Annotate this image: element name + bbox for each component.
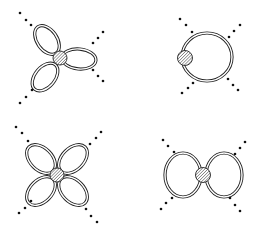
two-loop-vertex-diagram — [160, 139, 247, 213]
dot — [239, 147, 242, 150]
feynman-diagram-figure — [0, 0, 260, 231]
external-leg-dots — [19, 89, 34, 105]
dot — [85, 208, 88, 211]
dot — [15, 126, 18, 129]
external-leg-dots — [162, 139, 176, 154]
dot — [244, 141, 247, 144]
dot — [165, 202, 168, 205]
external-leg-dots — [92, 69, 105, 83]
dot — [232, 84, 235, 87]
dot — [162, 139, 165, 142]
dot — [173, 151, 176, 154]
three-loop-vertex-diagram — [19, 12, 105, 105]
dot — [31, 89, 34, 92]
external-leg-dots — [179, 18, 194, 34]
dot — [19, 102, 22, 105]
dot — [19, 12, 22, 15]
four-loop-vertex-diagram — [15, 126, 103, 224]
dot — [25, 19, 28, 22]
external-leg-dots — [160, 197, 174, 211]
dot — [160, 208, 163, 211]
external-leg-dots — [234, 141, 247, 156]
dot — [227, 78, 230, 81]
dot — [102, 80, 105, 83]
dot — [239, 210, 242, 213]
dot — [97, 37, 100, 40]
dot — [96, 221, 99, 224]
dot — [95, 137, 98, 140]
dot — [171, 197, 174, 200]
dot — [237, 89, 240, 92]
dot — [181, 92, 184, 95]
dot — [90, 215, 93, 218]
dot — [239, 24, 242, 27]
dot — [185, 24, 188, 27]
external-leg-dots — [89, 131, 103, 146]
dot — [192, 82, 195, 85]
external-leg-dots — [15, 126, 30, 143]
dot — [21, 132, 24, 135]
dot — [167, 145, 170, 148]
external-leg-dots — [19, 12, 33, 27]
propagator-loop — [206, 153, 242, 197]
external-leg-dots — [229, 197, 242, 213]
dot — [30, 24, 33, 27]
dot — [228, 36, 231, 39]
dot — [18, 212, 21, 215]
dot — [27, 140, 30, 143]
dot — [229, 197, 232, 200]
dot — [30, 200, 33, 203]
external-leg-dots — [228, 24, 242, 39]
dot — [191, 31, 194, 34]
dot — [102, 31, 105, 34]
hatched-vertex-blob — [178, 51, 193, 66]
external-leg-dots — [227, 78, 240, 92]
single-large-loop-diagram — [178, 18, 242, 95]
dot — [233, 30, 236, 33]
dot — [89, 143, 92, 146]
dot — [25, 96, 28, 99]
diagram-canvas — [0, 0, 260, 231]
dot — [97, 75, 100, 78]
dot — [179, 18, 182, 21]
hatched-vertex-blob — [50, 168, 64, 182]
dot — [234, 204, 237, 207]
dot — [234, 153, 237, 156]
external-leg-dots — [181, 82, 195, 95]
hatched-vertex-blob — [53, 51, 67, 65]
hatched-vertex-blob — [196, 168, 211, 183]
dot — [24, 207, 27, 210]
dot — [100, 131, 103, 134]
external-leg-dots — [18, 200, 33, 215]
dot — [92, 69, 95, 72]
external-leg-dots — [92, 31, 105, 45]
dot — [187, 87, 190, 90]
dot — [92, 42, 95, 45]
external-leg-dots — [85, 208, 99, 224]
